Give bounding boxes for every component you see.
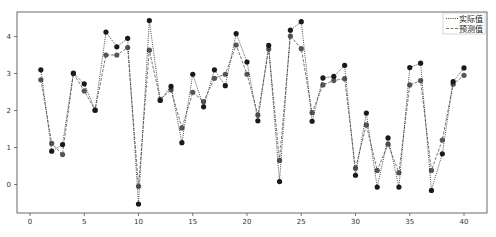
data-point — [136, 184, 141, 189]
data-point — [38, 67, 43, 72]
data-point — [234, 31, 239, 36]
data-point — [331, 74, 336, 79]
line-chart: 0510152025303540 01234 实际值 预测值 — [0, 0, 496, 237]
plot-frame — [17, 12, 487, 213]
data-point — [147, 48, 152, 53]
data-point — [114, 44, 119, 49]
data-point — [418, 61, 423, 66]
data-point — [429, 188, 434, 193]
y-tick-label: 4 — [7, 33, 12, 41]
data-point — [71, 71, 76, 76]
y-axis-ticks: 01234 — [7, 33, 17, 189]
data-point — [179, 140, 184, 145]
y-tick-label: 1 — [7, 144, 11, 152]
data-point — [353, 173, 358, 178]
data-point — [60, 152, 65, 157]
data-point — [396, 170, 401, 175]
data-point — [310, 119, 315, 124]
data-point — [407, 82, 412, 87]
data-point — [168, 84, 173, 89]
data-point — [103, 52, 108, 57]
x-tick-label: 15 — [188, 218, 197, 226]
legend: 实际值 预测值 — [443, 13, 485, 34]
data-point — [277, 179, 282, 184]
data-point — [223, 72, 228, 77]
data-point — [299, 46, 304, 51]
data-point — [190, 72, 195, 77]
data-point — [147, 18, 152, 23]
data-point — [49, 149, 54, 154]
data-point — [375, 168, 380, 173]
data-point — [288, 34, 293, 39]
data-point — [461, 65, 466, 70]
data-point — [60, 142, 65, 147]
data-point — [299, 19, 304, 24]
data-point — [461, 73, 466, 78]
data-point — [103, 29, 108, 34]
data-point — [407, 65, 412, 70]
data-point — [375, 184, 380, 189]
data-point — [353, 166, 358, 171]
legend-label-predicted: 预测值 — [459, 24, 483, 34]
data-point — [385, 135, 390, 140]
data-point — [49, 141, 54, 146]
data-point — [364, 110, 369, 115]
data-point — [201, 104, 206, 109]
x-axis-ticks: 0510152025303540 — [28, 213, 469, 226]
x-tick-label: 30 — [351, 218, 360, 226]
data-point — [244, 59, 249, 64]
data-point — [440, 151, 445, 156]
data-point — [158, 98, 163, 103]
x-tick-label: 20 — [243, 218, 252, 226]
data-point — [451, 79, 456, 84]
x-tick-label: 10 — [134, 218, 143, 226]
data-point — [82, 81, 87, 86]
data-point — [440, 138, 445, 143]
data-point — [266, 43, 271, 48]
data-point — [212, 76, 217, 81]
data-point — [190, 90, 195, 95]
x-tick-label: 0 — [28, 218, 32, 226]
data-point — [212, 67, 217, 72]
data-point — [342, 63, 347, 68]
data-point — [288, 28, 293, 33]
data-point — [255, 118, 260, 123]
y-tick-label: 0 — [7, 181, 11, 189]
data-point — [179, 125, 184, 130]
y-tick-label: 2 — [7, 107, 11, 115]
data-point — [125, 36, 130, 41]
data-point — [320, 75, 325, 80]
y-tick-label: 3 — [7, 70, 11, 78]
data-point — [125, 45, 130, 50]
x-tick-label: 35 — [405, 218, 414, 226]
legend-label-actual: 实际值 — [459, 14, 483, 24]
data-point — [396, 184, 401, 189]
x-tick-label: 40 — [460, 218, 469, 226]
data-point — [255, 112, 260, 117]
x-tick-label: 5 — [82, 218, 86, 226]
data-point — [114, 52, 119, 57]
data-point — [93, 108, 98, 113]
data-point — [136, 202, 141, 207]
data-point — [223, 83, 228, 88]
x-tick-label: 25 — [297, 218, 306, 226]
